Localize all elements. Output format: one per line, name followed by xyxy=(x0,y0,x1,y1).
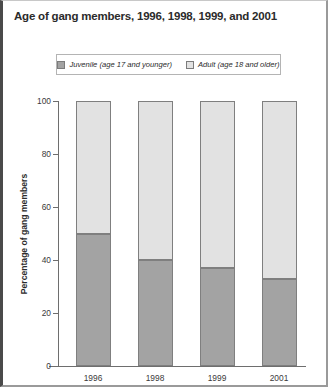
y-tick-label: 0 xyxy=(46,361,51,371)
y-tick-mark xyxy=(53,260,58,261)
y-tick-mark xyxy=(53,366,58,367)
chart-figure: Age of gang members, 1996, 1998, 1999, a… xyxy=(0,0,328,387)
legend-label-adult: Adult (age 18 and older) xyxy=(198,60,279,69)
bar-group xyxy=(138,101,173,366)
bar-segment-adult xyxy=(200,101,235,268)
bar-segment-adult xyxy=(76,101,111,234)
y-tick-mark xyxy=(53,207,58,208)
legend-swatch-adult xyxy=(186,61,194,69)
legend-item-juvenile: Juvenile (age 17 and younger) xyxy=(57,60,172,69)
y-tick-mark xyxy=(53,101,58,102)
legend-label-juvenile: Juvenile (age 17 and younger) xyxy=(69,60,172,69)
bar-segment-adult xyxy=(262,101,297,279)
y-tick-label: 60 xyxy=(42,202,51,212)
bar-group xyxy=(76,101,111,366)
x-axis-label: 2001 xyxy=(270,373,289,383)
bar-segment-juvenile xyxy=(76,234,111,367)
bar-segment-juvenile xyxy=(200,268,235,366)
x-axis-label: 1998 xyxy=(146,373,165,383)
y-tick-label: 80 xyxy=(42,149,51,159)
chart-legend: Juvenile (age 17 and younger) Adult (age… xyxy=(56,54,281,75)
bar-group xyxy=(200,101,235,366)
chart-title: Age of gang members, 1996, 1998, 1999, a… xyxy=(14,10,314,22)
y-tick-mark xyxy=(53,313,58,314)
y-tick-mark xyxy=(53,154,58,155)
x-axis-line xyxy=(49,366,306,367)
y-axis-title-text: Percentage of gang members xyxy=(19,173,29,293)
x-axis-label: 1996 xyxy=(84,373,103,383)
bar-segment-juvenile xyxy=(138,260,173,366)
y-tick-label: 20 xyxy=(42,308,51,318)
y-tick-label: 40 xyxy=(42,255,51,265)
x-axis-label: 1999 xyxy=(208,373,227,383)
legend-item-adult: Adult (age 18 and older) xyxy=(186,60,279,69)
y-tick-label: 100 xyxy=(37,96,51,106)
y-axis-line xyxy=(58,101,59,366)
bar-segment-adult xyxy=(138,101,173,260)
legend-swatch-juvenile xyxy=(57,61,65,69)
plot-area: 020406080100 1996199819992001 xyxy=(58,101,306,366)
bar-segment-juvenile xyxy=(262,279,297,366)
bar-group xyxy=(262,101,297,366)
y-axis-title: Percentage of gang members xyxy=(17,101,31,366)
